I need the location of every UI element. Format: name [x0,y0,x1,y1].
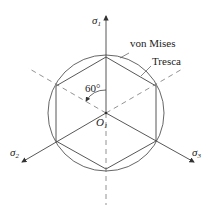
origin-point [105,112,108,115]
yield-surface-diagram: σ1 σ2 σ3 O1 60° von Mises Tresca [0,0,210,211]
von-mises-leader [120,53,129,58]
von-mises-label: von Mises [130,38,176,49]
sigma1-label: σ1 [92,15,101,28]
sigma3-label: σ3 [192,147,201,160]
sigma2-label: σ2 [10,147,19,160]
angle-label: 60° [85,83,100,94]
tresca-label: Tresca [152,56,181,67]
origin-label: O1 [96,117,107,130]
diagram-canvas [0,0,210,211]
